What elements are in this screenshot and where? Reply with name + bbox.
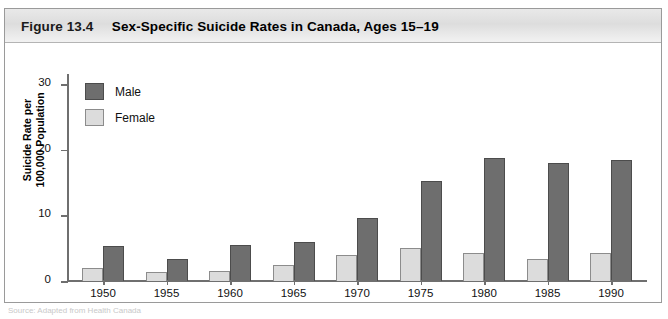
bar-female-1950 [82, 268, 103, 281]
x-axis-tick-1960 [230, 280, 232, 285]
y-axis-label-10: 10 [11, 207, 51, 219]
figure-number: Figure 13.4 [21, 19, 93, 34]
figure-footnote: Source: Adapted from Health Canada [8, 306, 308, 316]
bar-female-1955 [146, 272, 167, 281]
bar-female-1985 [527, 259, 548, 281]
figure-title: Sex-Specific Suicide Rates in Canada, Ag… [112, 19, 439, 34]
x-axis-tick-1990 [611, 280, 613, 285]
bar-group [400, 75, 442, 281]
bar-male-1990 [611, 160, 632, 281]
x-axis-label-1980: 1980 [454, 287, 514, 299]
legend-item-male: Male [85, 83, 155, 100]
y-axis-line [67, 74, 69, 282]
bar-female-1965 [273, 265, 294, 281]
bar-group [527, 75, 569, 281]
legend-label-male: Male [115, 85, 141, 99]
x-axis-label-1975: 1975 [391, 287, 451, 299]
bar-male-1955 [167, 259, 188, 281]
figure-frame: Figure 13.4 Sex-Specific Suicide Rates i… [4, 8, 662, 303]
y-axis-tick-30 [61, 84, 68, 86]
y-axis-label-20: 20 [11, 142, 51, 154]
bar-female-1970 [336, 255, 357, 281]
legend-label-female: Female [115, 111, 155, 125]
x-axis-tick-1980 [484, 280, 486, 285]
x-axis-label-1970: 1970 [327, 287, 387, 299]
bar-male-1980 [484, 158, 505, 281]
y-axis-tick-20 [61, 150, 68, 152]
x-axis-label-1955: 1955 [137, 287, 197, 299]
x-axis-label-1965: 1965 [264, 287, 324, 299]
x-axis-tick-1975 [421, 280, 423, 285]
x-axis-label-1960: 1960 [200, 287, 260, 299]
x-axis-label-1985: 1985 [518, 287, 578, 299]
bar-group [463, 75, 505, 281]
chart-plot-area: Suicide Rate per 100,000 Population 0102… [5, 43, 663, 302]
bar-female-1960 [209, 271, 230, 281]
figure-header: Figure 13.4 Sex-Specific Suicide Rates i… [5, 9, 661, 43]
chart-legend: Male Female [85, 83, 155, 135]
bar-male-1960 [230, 245, 251, 281]
y-axis-tick-10 [61, 215, 68, 217]
x-axis-tick-1985 [548, 280, 550, 285]
bar-group [590, 75, 632, 281]
x-axis-label-1950: 1950 [73, 287, 133, 299]
bar-female-1975 [400, 248, 421, 281]
legend-swatch-male-icon [85, 83, 104, 100]
bar-female-1990 [590, 253, 611, 281]
bar-group [273, 75, 315, 281]
figure-header-text: Figure 13.4 Sex-Specific Suicide Rates i… [21, 17, 439, 35]
bar-male-1975 [421, 181, 442, 281]
y-axis-label-30: 30 [11, 76, 51, 88]
x-axis-tick-1970 [357, 280, 359, 285]
bar-male-1965 [294, 242, 315, 281]
bar-male-1985 [548, 163, 569, 281]
x-axis-tick-1950 [103, 280, 105, 285]
x-axis-tick-1965 [294, 280, 296, 285]
x-axis-label-1990: 1990 [581, 287, 641, 299]
y-axis-tick-0 [61, 281, 68, 283]
x-axis-tick-1955 [167, 280, 169, 285]
bar-male-1950 [103, 246, 124, 281]
legend-swatch-female-icon [85, 109, 104, 126]
bar-group [336, 75, 378, 281]
y-axis-label-0: 0 [11, 273, 51, 285]
bar-female-1980 [463, 253, 484, 281]
bar-group [209, 75, 251, 281]
bar-male-1970 [357, 218, 378, 281]
legend-item-female: Female [85, 109, 155, 126]
